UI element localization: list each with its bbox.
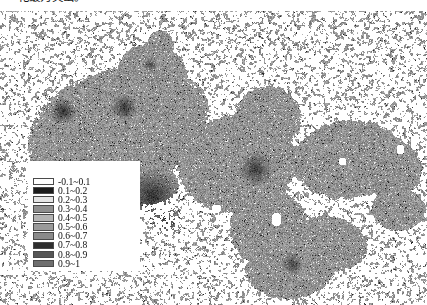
legend-swatch: [33, 242, 54, 249]
legend-row: 0.8~0.9: [33, 250, 135, 259]
map-legend: -0.1~0.10.1~0.20.2~0.30.3~0.40.4~0.50.5~…: [33, 177, 135, 268]
legend-swatch: [33, 260, 54, 267]
figure-page: 化最为突出。 -0.1~0.10.1~0.20.2~0.30.3~0.40.4~…: [0, 0, 427, 305]
legend-swatch: [33, 232, 54, 239]
legend-swatch: [33, 187, 54, 194]
legend-swatch: [33, 251, 54, 258]
caption-text: 化最为突出。: [18, 0, 85, 4]
legend-label: 0.9~1: [58, 259, 80, 269]
legend-swatch: [33, 196, 54, 203]
legend-row: 0.9~1: [33, 259, 135, 268]
legend-swatch: [33, 214, 54, 221]
legend-swatch: [33, 223, 54, 230]
legend-swatch: [33, 178, 54, 185]
caption-clip: 化最为突出。: [0, 0, 427, 11]
legend-swatch: [33, 205, 54, 212]
map-figure: -0.1~0.10.1~0.20.2~0.30.3~0.40.4~0.50.5~…: [0, 11, 427, 305]
